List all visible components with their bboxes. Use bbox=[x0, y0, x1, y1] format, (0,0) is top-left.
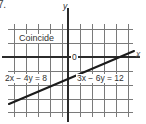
coincide-label: Coincide bbox=[18, 34, 55, 43]
figure-container: 7. bbox=[0, 0, 146, 124]
origin-label: 0 bbox=[71, 53, 78, 62]
graph-svg bbox=[0, 0, 146, 124]
y-axis-label: y bbox=[63, 2, 67, 11]
equation-label-right: 3x − 6y = 12 bbox=[76, 74, 125, 83]
coordinate-graph bbox=[0, 0, 146, 124]
equation-label-left: 2x − 4y = 8 bbox=[4, 74, 48, 83]
x-axis-label: x bbox=[136, 50, 140, 59]
